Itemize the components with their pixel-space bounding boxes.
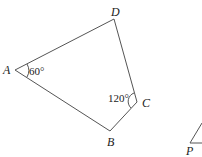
partial-figure-side: [190, 123, 202, 143]
vertex-label-p: P: [185, 144, 194, 157]
vertex-label-a: A: [2, 63, 11, 77]
vertex-label-d: D: [110, 5, 120, 19]
vertex-label-c: C: [142, 96, 151, 110]
angle-label-c: 120°: [108, 92, 129, 104]
angle-label-a: 60°: [29, 65, 44, 77]
geometry-diagram: A B C D 60° 120° P: [0, 0, 202, 157]
vertex-label-b: B: [107, 135, 115, 149]
